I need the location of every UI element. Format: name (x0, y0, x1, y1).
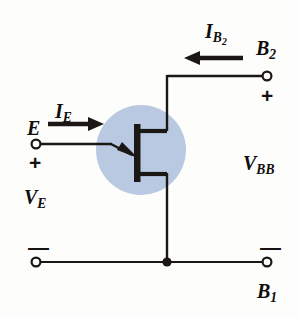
label-base-two-terminal: B2 (256, 38, 276, 58)
label-base-two-current: IB2 (205, 21, 227, 41)
polarity-minus-bottom-right: — (260, 236, 281, 257)
terminal-bottom-left (32, 258, 41, 267)
device-highlight-circle (96, 105, 186, 195)
label-emitter-current: IE (55, 101, 72, 121)
ujt-silicon-bar (134, 124, 141, 182)
polarity-plus-emitter: + (29, 152, 41, 173)
label-supply-voltage: VBB (243, 153, 274, 173)
current-arrow-ib2-head-icon (184, 51, 200, 65)
wire-junction-dot (162, 257, 171, 266)
terminal-base-one (263, 258, 272, 267)
polarity-plus-base-two: + (261, 85, 273, 106)
polarity-minus-bottom-left: — (28, 236, 49, 257)
terminal-emitter (32, 140, 41, 149)
label-emitter-terminal: E (27, 118, 40, 138)
ujt-circuit-figure: IB2 B2 IE E VBB VE B1 + + — — (0, 0, 299, 317)
label-base-one-terminal: B1 (257, 281, 277, 301)
label-emitter-voltage: VE (24, 187, 46, 207)
terminal-base-two (263, 72, 272, 81)
